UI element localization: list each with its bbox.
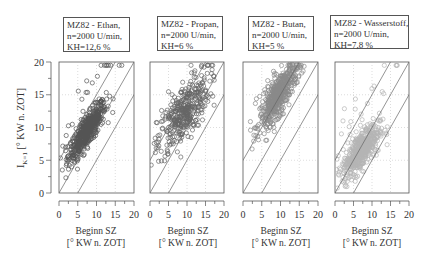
x-tick-label: 5 xyxy=(351,209,356,220)
panel-1-title-line-1: MZ82 - Ethan, xyxy=(67,20,126,31)
x-tick-label: 15 xyxy=(386,209,396,220)
x-tick-label: 20 xyxy=(129,209,139,220)
x-axis-label-line-2: [° KW n. ZOT] xyxy=(236,237,326,249)
x-tick-label: 0 xyxy=(241,209,246,220)
x-tick-label: 5 xyxy=(75,209,80,220)
panel-4-title-line-1: MZ82 - Wasserstoff, xyxy=(334,18,405,29)
x-axis-label-line-2: [° KW n. ZOT] xyxy=(143,237,233,249)
x-tick-label: 20 xyxy=(313,209,323,220)
panel-1-title-line-3: KH=12,6 % xyxy=(67,42,126,53)
x-axis-label-line-1: Beginn SZ xyxy=(143,225,233,237)
y-axis-label-main: I xyxy=(15,165,26,168)
x-tick-label: 20 xyxy=(219,209,229,220)
x-tick-label: 0 xyxy=(333,209,338,220)
panel-1-title-line-2: n=2000 U/min, xyxy=(67,31,126,42)
panel-2-title-line-2: n=2000 U/min, xyxy=(161,30,219,41)
x-axis-label-line-2: [° KW n. ZOT] xyxy=(51,237,141,249)
x-tick-label: 10 xyxy=(367,209,377,220)
x-tick-label: 10 xyxy=(182,209,192,220)
y-tick-label: 5 xyxy=(39,155,44,166)
panel-3-title-box: MZ82 - Butan, n=2000 U/min, KH=5 % xyxy=(248,16,314,51)
panel-2-title-box: MZ82 - Propan, n=2000 U/min, KH=6 % xyxy=(157,16,223,51)
x-tick-label: 15 xyxy=(294,209,304,220)
panel-4-title-line-3: KH=7,8 % xyxy=(334,40,405,51)
x-tick-label: 5 xyxy=(166,209,171,220)
x-axis-label-line-2: [° KW n. ZOT] xyxy=(327,237,417,249)
x-tick-label: 15 xyxy=(201,209,211,220)
x-tick-label: 0 xyxy=(148,209,153,220)
y-tick-label: 0 xyxy=(39,188,44,199)
panel-1-x-axis-label: Beginn SZ [° KW n. ZOT] xyxy=(51,225,141,249)
y-axis-label: IK=1 [° KW n. ZOT] xyxy=(15,88,29,168)
y-tick-label: 10 xyxy=(34,122,44,133)
panel-1-title-box: MZ82 - Ethan, n=2000 U/min, KH=12,6 % xyxy=(63,17,130,52)
figure: 0510152005101520051015200510152005101520… xyxy=(0,0,431,261)
x-tick-label: 15 xyxy=(110,209,120,220)
x-axis-label-line-1: Beginn SZ xyxy=(51,225,141,237)
x-tick-label: 0 xyxy=(57,209,62,220)
panel-3-title-line-1: MZ82 - Butan, xyxy=(252,19,310,30)
y-tick-label: 20 xyxy=(34,57,44,68)
panel-4-x-axis-label: Beginn SZ [° KW n. ZOT] xyxy=(327,225,417,249)
panel-2-x-axis-label: Beginn SZ [° KW n. ZOT] xyxy=(143,225,233,249)
y-tick-label: 15 xyxy=(34,89,44,100)
panel-4-title-box: MZ82 - Wasserstoff, n=2000 U/min, KH=7,8… xyxy=(330,15,409,49)
x-tick-label: 20 xyxy=(404,209,414,220)
panel-2-title-line-1: MZ82 - Propan, xyxy=(161,19,219,30)
y-axis-label-subscript: K=1 xyxy=(21,152,29,165)
x-axis-label-line-1: Beginn SZ xyxy=(236,225,326,237)
panel-4-title-line-2: n=2000 U/min, xyxy=(334,29,405,40)
x-tick-label: 5 xyxy=(259,209,264,220)
x-tick-label: 10 xyxy=(276,209,286,220)
panel-3-title-line-3: KH=5 % xyxy=(252,41,310,52)
panel-2-title-line-3: KH=6 % xyxy=(161,41,219,52)
x-axis-label-line-1: Beginn SZ xyxy=(327,225,417,237)
panel-3-x-axis-label: Beginn SZ [° KW n. ZOT] xyxy=(236,225,326,249)
panel-3-title-line-2: n=2000 U/min, xyxy=(252,30,310,41)
x-tick-label: 10 xyxy=(92,209,102,220)
y-axis-label-unit: [° KW n. ZOT] xyxy=(15,88,26,152)
